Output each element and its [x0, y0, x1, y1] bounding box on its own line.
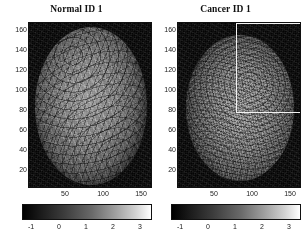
figure-canvas: Normal ID 1 160 140 120 100 80 60 40 20 …	[0, 0, 307, 245]
heatmap-image-normal	[29, 23, 151, 187]
colorbar-gradient	[171, 204, 301, 220]
colorbar-tick-label: 3	[279, 222, 299, 231]
colorbar-tick-label: -1	[170, 222, 190, 231]
pixel-grain	[29, 23, 151, 187]
colorbar-tick-label: 2	[103, 222, 123, 231]
y-tick-label: 140	[150, 46, 176, 54]
y-tick-label: 20	[1, 166, 27, 174]
panel-title-cancer: Cancer ID 1	[149, 4, 302, 15]
x-tick-label: 100	[240, 189, 264, 198]
y-axis-ticks-normal: 160 140 120 100 80 60 40 20	[0, 22, 27, 188]
colorbar-ticks: -1 0 1 2 3	[22, 222, 152, 232]
colorbar-tick-label: 1	[225, 222, 245, 231]
y-tick-label: 160	[1, 26, 27, 34]
panel-title-normal: Normal ID 1	[0, 4, 153, 15]
y-tick-label: 40	[1, 146, 27, 154]
y-tick-label: 120	[150, 66, 176, 74]
y-tick-label: 100	[150, 86, 176, 94]
colorbar-tick-label: 3	[130, 222, 150, 231]
colorbar-tick-label: -1	[21, 222, 41, 231]
colorbar-tick-label: 0	[198, 222, 218, 231]
colorbar-tick-label: 0	[49, 222, 69, 231]
y-tick-label: 80	[150, 106, 176, 114]
y-tick-label: 160	[150, 26, 176, 34]
panel-normal: Normal ID 1 160 140 120 100 80 60 40 20 …	[0, 0, 153, 245]
colorbar-tick-label: 2	[252, 222, 272, 231]
colorbar-tick-label: 1	[76, 222, 96, 231]
x-axis-ticks-normal: 50 100 150	[28, 189, 152, 199]
x-tick-label: 100	[91, 189, 115, 198]
y-tick-label: 20	[150, 166, 176, 174]
colorbar-normal: -1 0 1 2 3	[22, 204, 152, 242]
heatmap-cancer[interactable]	[177, 22, 301, 188]
x-tick-label: 150	[278, 189, 302, 198]
y-tick-label: 60	[150, 126, 176, 134]
y-tick-label: 140	[1, 46, 27, 54]
heatmap-image-cancer	[178, 23, 300, 187]
colorbar-ticks: -1 0 1 2 3	[171, 222, 301, 232]
panel-cancer: Cancer ID 1 160 140 120 100 80 60 40 20	[149, 0, 302, 245]
y-tick-label: 60	[1, 126, 27, 134]
y-axis-ticks-cancer: 160 140 120 100 80 60 40 20	[149, 22, 176, 188]
heatmap-normal[interactable]	[28, 22, 152, 188]
colorbar-gradient	[22, 204, 152, 220]
y-tick-label: 120	[1, 66, 27, 74]
colorbar-cancer: -1 0 1 2 3	[171, 204, 301, 242]
y-tick-label: 100	[1, 86, 27, 94]
y-tick-label: 80	[1, 106, 27, 114]
y-tick-label: 40	[150, 146, 176, 154]
x-axis-ticks-cancer: 50 100 150	[177, 189, 301, 199]
pixel-grain	[178, 23, 300, 187]
x-tick-label: 50	[53, 189, 77, 198]
x-tick-label: 50	[202, 189, 226, 198]
